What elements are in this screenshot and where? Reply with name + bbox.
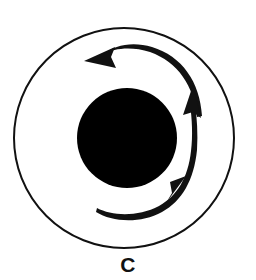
figure-container: C	[0, 0, 256, 280]
rotation-diagram	[0, 0, 256, 280]
inner-black-disk	[77, 88, 177, 188]
figure-caption: C	[0, 252, 256, 278]
